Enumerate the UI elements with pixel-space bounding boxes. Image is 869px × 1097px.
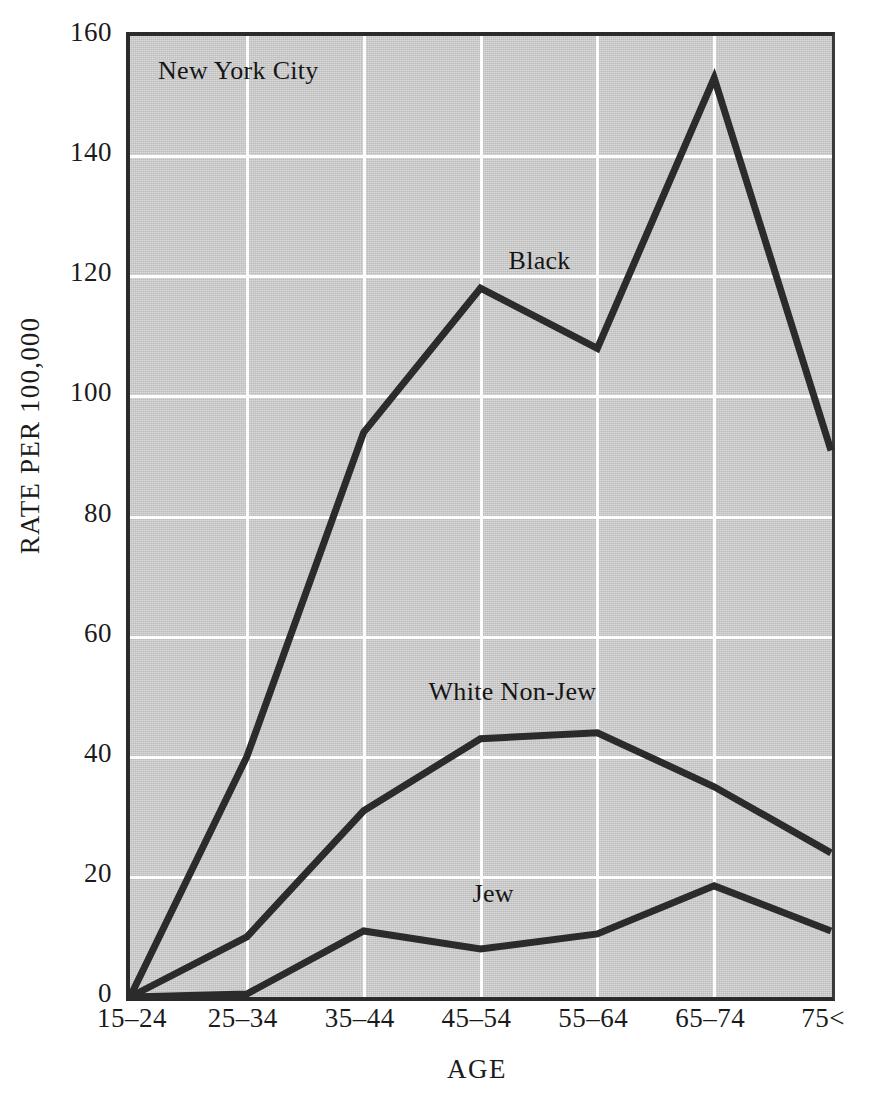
x-axis-tick-label: 65–74 <box>675 1003 745 1034</box>
chart-note: New York City <box>158 56 319 86</box>
x-axis-tick-label: 25–34 <box>208 1003 278 1034</box>
black-series-label: Black <box>509 246 571 276</box>
series-layer <box>130 36 832 997</box>
y-axis-tick-label: 140 <box>4 137 112 168</box>
plot-area: New York CityBlackWhite Non-JewJew <box>126 32 835 1001</box>
jew-series-label: Jew <box>473 879 514 909</box>
x-axis-tick-label: 45–54 <box>442 1003 512 1034</box>
y-axis-title: RATE PER 100,000 <box>15 216 46 656</box>
series-line <box>130 733 831 997</box>
x-axis-tick-label: 55–64 <box>558 1003 628 1034</box>
chart-figure: 020406080100120140160 RATE PER 100,000 N… <box>0 0 869 1097</box>
y-axis-tick-label: 20 <box>4 857 112 888</box>
x-axis-tick-label: 75< <box>801 1003 845 1034</box>
x-axis-tick-label: 15–24 <box>97 1003 167 1034</box>
y-axis-tick-label: 160 <box>4 17 112 48</box>
plot-inner: New York CityBlackWhite Non-JewJew <box>130 36 832 997</box>
series-line <box>130 78 831 997</box>
y-axis-tick-label: 0 <box>4 978 112 1009</box>
white-nonjew-series-label: White Non-Jew <box>429 677 597 707</box>
x-axis-tick-label: 35–44 <box>325 1003 395 1034</box>
x-axis-title: AGE <box>126 1054 828 1085</box>
x-axis-ticks: 15–2425–3435–4445–5455–6465–7475< <box>126 1003 828 1043</box>
y-axis-tick-label: 40 <box>4 737 112 768</box>
